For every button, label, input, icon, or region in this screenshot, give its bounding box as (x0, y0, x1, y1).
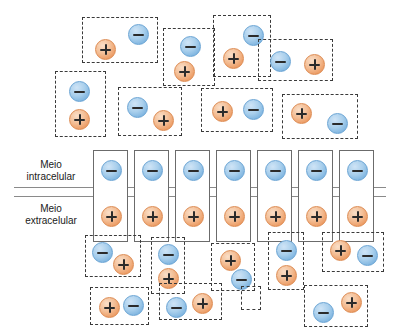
minus-glyph-icon (348, 161, 367, 180)
dipole-box (85, 235, 141, 277)
minus-glyph-icon (181, 37, 200, 56)
plus-ion (69, 109, 90, 130)
plus-glyph-icon (193, 294, 212, 313)
minus-ion (69, 81, 90, 102)
dipole-box (241, 286, 261, 310)
label-meio-intracelular: Meio intracelular (8, 159, 94, 183)
label-extracellular-line1: Meio (8, 203, 94, 215)
minus-glyph-icon (129, 25, 148, 44)
plus-ion (99, 297, 120, 318)
membrane-diagram: Meio intracelular Meio extracelular (0, 0, 400, 336)
plus-glyph-icon (100, 298, 119, 317)
plus-ion (113, 254, 134, 275)
plus-glyph-icon (175, 62, 194, 81)
plus-ion (212, 101, 233, 122)
minus-glyph-icon (184, 161, 203, 180)
minus-ion (327, 113, 348, 134)
plus-ion (330, 240, 351, 261)
minus-glyph-icon (70, 82, 89, 101)
membrane-channel (216, 150, 251, 242)
minus-ion (158, 244, 179, 265)
dipole-box (90, 287, 149, 325)
dipole-box (322, 232, 384, 272)
minus-ion (92, 242, 113, 263)
minus-ion (183, 160, 204, 181)
minus-glyph-icon (358, 246, 377, 265)
minus-ion (270, 51, 291, 72)
dipole-box (201, 88, 273, 132)
plus-glyph-icon (305, 55, 324, 74)
plus-glyph-icon (307, 207, 326, 226)
minus-ion (306, 160, 327, 181)
minus-glyph-icon (102, 161, 121, 180)
dipole-box (258, 39, 333, 81)
minus-ion (276, 240, 297, 261)
dipole-box (282, 94, 358, 139)
minus-ion (127, 97, 148, 118)
minus-ion (123, 295, 144, 316)
label-intracellular-line1: Meio (8, 159, 94, 171)
label-intracellular-line2: intracelular (8, 171, 94, 183)
dipole-box (304, 285, 368, 327)
minus-ion (243, 99, 264, 120)
plus-glyph-icon (221, 251, 240, 270)
minus-glyph-icon (271, 52, 290, 71)
membrane-channel (257, 150, 292, 242)
minus-glyph-icon (328, 114, 347, 133)
plus-ion (276, 265, 297, 286)
plus-glyph-icon (70, 110, 89, 129)
minus-glyph-icon (93, 243, 112, 262)
plus-glyph-icon (331, 241, 350, 260)
minus-glyph-icon (244, 100, 263, 119)
minus-glyph-icon (307, 161, 326, 180)
label-extracellular-line2: extracelular (8, 215, 94, 227)
plus-ion (142, 206, 163, 227)
minus-ion (101, 160, 122, 181)
membrane-channel (93, 150, 128, 242)
plus-ion (101, 206, 122, 227)
minus-ion (142, 160, 163, 181)
minus-glyph-icon (124, 296, 143, 315)
plus-glyph-icon (102, 207, 121, 226)
plus-glyph-icon (154, 111, 173, 130)
dipole-box (118, 87, 182, 136)
dipole-box (163, 28, 215, 86)
plus-glyph-icon (277, 266, 296, 285)
plus-ion (183, 206, 204, 227)
membrane-channel (134, 150, 169, 242)
membrane-channel (175, 150, 210, 242)
plus-ion (153, 110, 174, 131)
plus-ion (341, 292, 362, 313)
minus-glyph-icon (266, 161, 285, 180)
minus-ion (166, 297, 187, 318)
plus-glyph-icon (224, 49, 243, 68)
minus-ion (347, 160, 368, 181)
plus-glyph-icon (114, 255, 133, 274)
plus-ion (223, 48, 244, 69)
minus-ion (265, 160, 286, 181)
dipole-box (159, 283, 222, 320)
plus-glyph-icon (342, 293, 361, 312)
plus-glyph-icon (225, 207, 244, 226)
minus-ion (128, 24, 149, 45)
membrane-channel (298, 150, 333, 242)
minus-glyph-icon (277, 241, 296, 260)
plus-ion (347, 206, 368, 227)
minus-ion (313, 302, 334, 323)
plus-ion (265, 206, 286, 227)
minus-glyph-icon (159, 245, 178, 264)
plus-ion (291, 103, 312, 124)
plus-glyph-icon (348, 207, 367, 226)
dipole-box (82, 17, 158, 63)
dipole-box (55, 71, 106, 137)
plus-ion (220, 250, 241, 271)
minus-glyph-icon (225, 161, 244, 180)
minus-ion (180, 36, 201, 57)
plus-glyph-icon (184, 207, 203, 226)
plus-glyph-icon (213, 102, 232, 121)
plus-ion (306, 206, 327, 227)
plus-glyph-icon (143, 207, 162, 226)
plus-ion (224, 206, 245, 227)
plus-ion (304, 54, 325, 75)
dipole-box (268, 232, 304, 290)
